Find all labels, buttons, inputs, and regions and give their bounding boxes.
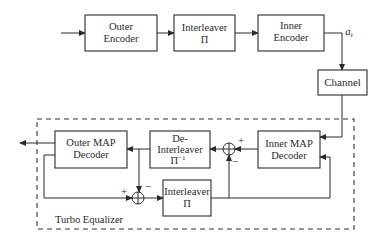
outer-map-line2: Decoder — [73, 149, 109, 160]
turbo-equalizer-diagram: Outer Encoder Interleaver Π Inner Encode… — [0, 0, 385, 243]
outer-map-decoder-block: Outer MAP Decoder — [55, 131, 127, 168]
interleaver-block: Interleaver Π — [174, 15, 235, 51]
upper-sum-plus: + — [238, 134, 244, 146]
interleaver-line1: Interleaver — [182, 22, 228, 33]
outer-map-line1: Outer MAP — [66, 137, 115, 148]
symbol-label-a: at — [345, 25, 354, 39]
arrow-channel-to-inner-map — [320, 95, 342, 137]
interleaver-2-line1: Interleaver — [164, 186, 210, 197]
interleaver-line2: Π — [201, 34, 209, 45]
lower-sum-plus: + — [121, 185, 127, 197]
interleaver-2-line2: Π — [183, 198, 191, 209]
channel-block: Channel — [318, 70, 367, 95]
inner-encoder-line1: Inner — [280, 20, 303, 31]
lower-sum-minus: − — [145, 180, 151, 192]
de-interleaver-block: De- Interleaver Π−1 — [150, 131, 210, 168]
inner-map-decoder-block: Inner MAP Decoder — [258, 131, 320, 168]
inner-map-line1: Inner MAP — [265, 138, 313, 149]
de-interleaver-line1: De- — [172, 133, 188, 144]
lower-sum-junction — [132, 192, 144, 204]
inner-encoder-block: Inner Encoder — [258, 15, 324, 51]
turbo-equalizer-label: Turbo Equalizer — [55, 214, 124, 225]
upper-sum-junction — [223, 143, 235, 155]
channel-label: Channel — [324, 76, 361, 88]
arrow-inner-to-channel — [324, 33, 342, 70]
inner-encoder-line2: Encoder — [274, 32, 309, 43]
outer-encoder-line1: Outer — [109, 21, 133, 32]
interleaver-2-block: Interleaver Π — [163, 180, 211, 216]
upper-sum-minus: − — [232, 155, 238, 167]
inner-map-line2: Decoder — [271, 150, 307, 161]
outer-encoder-line2: Encoder — [104, 33, 139, 44]
outer-encoder-block: Outer Encoder — [85, 15, 157, 51]
